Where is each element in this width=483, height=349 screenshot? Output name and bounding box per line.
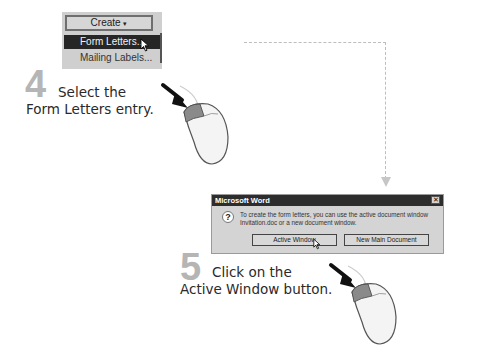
create-button-label: Create [91,17,121,28]
step-5-line2: Active Window button. [180,281,332,298]
new-main-document-button[interactable]: New Main Document [344,234,429,246]
step-4-line1: Select the [58,84,126,101]
dialog-message: To create the form letters, you can use … [240,211,440,227]
menu-shadow [160,33,162,63]
mouse-icon [160,82,235,167]
cursor-arrow-icon [140,38,150,52]
step-number-4: 4 [25,67,46,101]
mouse-click-illustration [160,82,235,167]
chevron-down-icon: ▾ [123,20,127,27]
dialog-title: Microsoft Word [212,195,443,206]
step-number-5: 5 [180,250,201,284]
create-button[interactable]: Create ▾ [65,15,153,31]
mouse-icon [328,262,403,347]
cursor-arrow-icon [313,238,321,250]
menu-item-mailing-labels[interactable]: Mailing Labels... [64,51,162,65]
step-5-line1: Click on the [212,264,292,281]
active-window-button[interactable]: Active Window [252,234,337,246]
mouse-click-illustration [328,262,403,347]
microsoft-word-dialog: Microsoft Word ✕ ? To create the form le… [211,194,444,254]
connector-line-vertical [385,42,386,179]
arrow-down-icon [381,177,391,187]
question-icon: ? [222,211,234,223]
step-4-line2: Form Letters entry. [26,101,154,118]
close-icon[interactable]: ✕ [431,196,440,204]
connector-line-horizontal [244,42,386,43]
